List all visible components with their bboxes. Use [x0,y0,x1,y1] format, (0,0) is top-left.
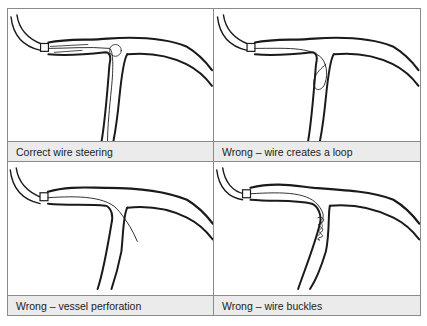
caption-wire-loop: Wrong – wire creates a loop [214,141,420,161]
panel-correct-steering: Correct wire steering [8,9,214,162]
vessel-drawing [214,162,420,295]
illustration-wire-loop [214,9,420,141]
panel-wire-buckles: Wrong – wire buckles [214,162,420,315]
panel-vessel-perforation: Wrong – vessel perforation [8,162,214,315]
illustration-correct-steering [8,9,213,141]
illustration-vessel-perforation [8,162,213,295]
panel-wire-loop: Wrong – wire creates a loop [214,9,420,162]
caption-correct-steering: Correct wire steering [8,141,213,161]
vessel-drawing [214,9,420,141]
wire-steering-figure: Correct wire steering Wrong – wire creat… [7,8,421,316]
illustration-wire-buckles [214,162,420,295]
vessel-drawing [8,9,213,141]
caption-vessel-perforation: Wrong – vessel perforation [8,295,213,315]
caption-wire-buckles: Wrong – wire buckles [214,295,420,315]
vessel-drawing [8,162,213,295]
